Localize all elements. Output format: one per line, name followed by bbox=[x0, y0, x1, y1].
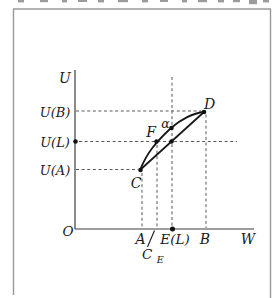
ul-axis-dot bbox=[73, 139, 78, 144]
x-tick-label-b: B bbox=[199, 231, 210, 247]
x-tick-label-a: A bbox=[133, 231, 145, 247]
ce-label-subscript: E bbox=[156, 254, 164, 265]
x-tick-label-el: E(L) bbox=[159, 231, 189, 247]
point-c-dot bbox=[138, 168, 143, 173]
point-alpha-dot bbox=[169, 126, 174, 131]
ce-pointer-slash bbox=[148, 231, 155, 248]
utility-wealth-diagram: U O W U(B) U(L) U(A) A E(L) B C E C F α … bbox=[0, 0, 279, 298]
ce-label-base: C bbox=[142, 246, 153, 262]
y-tick-label-ul: U(L) bbox=[40, 135, 70, 150]
x-tick-label-ce: C E bbox=[142, 246, 164, 265]
cropped-text-remnants bbox=[18, 0, 269, 4]
point-label-alpha: α bbox=[161, 116, 170, 131]
point-label-c: C bbox=[131, 175, 142, 191]
y-tick-label-ub: U(B) bbox=[40, 105, 71, 120]
y-axis-label: U bbox=[59, 70, 72, 86]
figure-page: U O W U(B) U(L) U(A) A E(L) B C E C F α … bbox=[0, 0, 279, 298]
point-label-f: F bbox=[145, 124, 157, 140]
y-tick-label-ua: U(A) bbox=[40, 163, 71, 178]
point-chord-el-dot bbox=[169, 139, 174, 144]
origin-label: O bbox=[62, 223, 73, 239]
x-axis-label: W bbox=[241, 231, 257, 247]
point-label-d: D bbox=[203, 96, 215, 112]
axes bbox=[75, 70, 254, 229]
